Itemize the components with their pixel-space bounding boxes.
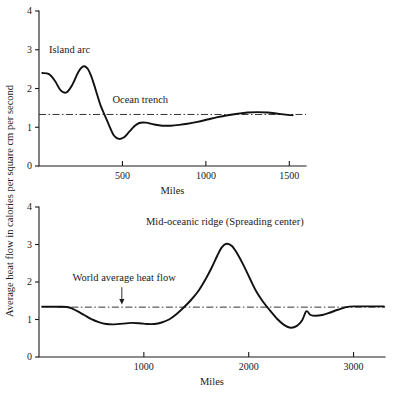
heat-flow-curve <box>42 244 384 328</box>
annotation-label: Mid-oceanic ridge (Spreading center) <box>146 216 304 228</box>
axis-spines <box>39 11 306 166</box>
x-axis-title: Miles <box>161 185 185 196</box>
y-tick-label: 3 <box>27 44 32 55</box>
annotation-label: World average heat flow <box>73 272 177 283</box>
y-tick-label: 1 <box>27 314 32 325</box>
y-tick-label: 0 <box>27 160 32 171</box>
y-tick-label: 4 <box>27 201 32 212</box>
annotation-label: Island arc <box>49 44 90 55</box>
y-tick-label: 2 <box>27 83 32 94</box>
y-tick-label: 1 <box>27 122 32 133</box>
x-axis-title: Miles <box>200 376 224 387</box>
x-tick-label: 500 <box>115 170 130 181</box>
x-tick-label: 1500 <box>279 170 299 181</box>
heat-flow-chart-svg: 0123450010001500MilesIsland arcOcean tre… <box>0 0 405 401</box>
x-tick-label: 1000 <box>134 361 154 372</box>
annotation-label: Ocean trench <box>112 94 168 105</box>
y-tick-label: 0 <box>27 351 32 362</box>
x-tick-label: 1000 <box>196 170 216 181</box>
chart-panel-island-arc-trench-profile: 0123450010001500MilesIsland arcOcean tre… <box>27 5 306 196</box>
y-tick-label: 2 <box>27 276 32 287</box>
y-tick-label: 4 <box>27 5 32 16</box>
y-axis-title: Average heat flow in calories per square… <box>4 84 15 317</box>
annotation-arrow-head <box>119 299 124 304</box>
x-tick-label: 3000 <box>344 361 364 372</box>
heat-flow-figure: 0123450010001500MilesIsland arcOcean tre… <box>0 0 405 401</box>
x-tick-label: 2000 <box>239 361 259 372</box>
y-tick-label: 3 <box>27 239 32 250</box>
chart-panel-mid-oceanic-ridge-profile: 01234100020003000MilesMid-oceanic ridge … <box>27 201 385 387</box>
